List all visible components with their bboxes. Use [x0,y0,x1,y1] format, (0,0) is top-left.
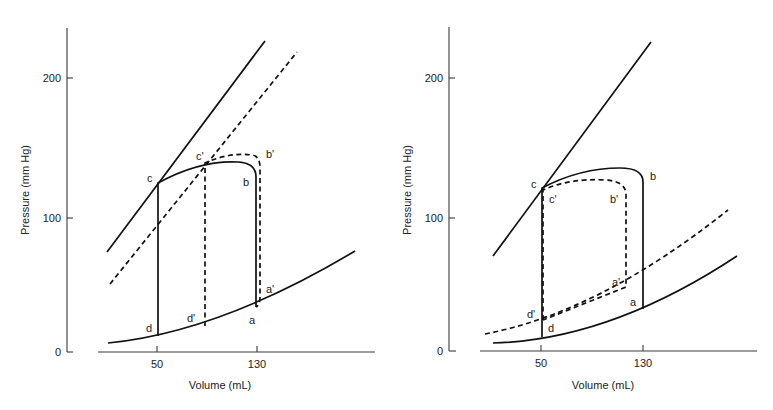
pv-loop [158,162,256,336]
y-tick-label-100: 100 [425,212,443,224]
x-tick-label-50: 50 [151,358,163,370]
label-b-prime: b' [266,148,274,160]
label-d-prime: d' [187,312,195,324]
espvr-line [493,42,651,256]
x-tick-label-130: 130 [634,357,652,369]
y-tick-label-0: 0 [437,345,443,357]
label-c: c [531,178,537,190]
label-a-prime: a' [266,283,274,295]
x-axis-title: Volume (mL) [189,379,251,391]
label-b: b [650,170,656,182]
label-b: b [243,176,249,188]
label-d: d [146,322,152,334]
y-axis-title: Pressure (mm Hg) [401,145,413,235]
left-panel: 200 100 0 50 130 Volume (mL) Pressure (m… [19,28,375,391]
x-tick-label-50: 50 [535,357,547,369]
y-tick-label-200: 200 [43,72,61,84]
label-c-prime: c' [196,150,204,162]
y-tick-label-0: 0 [55,346,61,358]
edpvr-curve [493,256,737,343]
label-c: c [147,172,153,184]
label-a: a [249,314,256,326]
right-panel: 200 100 0 50 130 Volume (mL) Pressure (m… [401,27,757,391]
y-tick-label-100: 100 [43,212,61,224]
label-d-prime: d' [527,308,535,320]
pressure-volume-diagrams: 200 100 0 50 130 Volume (mL) Pressure (m… [0,0,773,410]
edpvr-curve-dashed [485,210,728,334]
x-tick-label-130: 130 [248,358,266,370]
label-a-prime: a' [612,276,620,288]
pv-loop-dashed [205,154,260,326]
label-d: d [548,322,554,334]
label-a: a [630,296,637,308]
label-c-prime: c' [549,193,557,205]
espvr-line [107,41,265,252]
label-b-prime: b' [610,193,618,205]
espvr-line-dashed [110,52,297,284]
x-axis-title: Volume (mL) [572,379,634,391]
y-axis-title: Pressure (mm Hg) [19,145,31,235]
pv-loop [542,168,643,337]
y-tick-label-200: 200 [425,72,443,84]
